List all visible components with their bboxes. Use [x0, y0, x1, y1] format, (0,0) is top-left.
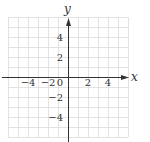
x-tick-label: 0 — [57, 77, 63, 88]
y-tick-label: −2 — [48, 92, 63, 103]
x-tick-labels: −4−2024 — [21, 77, 112, 88]
y-tick-label: 4 — [57, 32, 63, 43]
x-axis-label: x — [131, 70, 138, 84]
y-tick-label: −4 — [48, 112, 63, 123]
x-axis-arrow-icon — [121, 75, 129, 80]
x-tick-label: 4 — [105, 77, 111, 88]
y-axis-arrow-icon — [66, 18, 71, 26]
x-tick-label: −4 — [21, 77, 36, 88]
y-axis-label: y — [63, 2, 71, 16]
y-tick-label: 2 — [57, 52, 63, 63]
x-tick-label: 2 — [85, 77, 91, 88]
coordinate-plane: x y −4−2024 42−2−4 — [0, 0, 150, 142]
x-tick-label: −2 — [41, 77, 56, 88]
